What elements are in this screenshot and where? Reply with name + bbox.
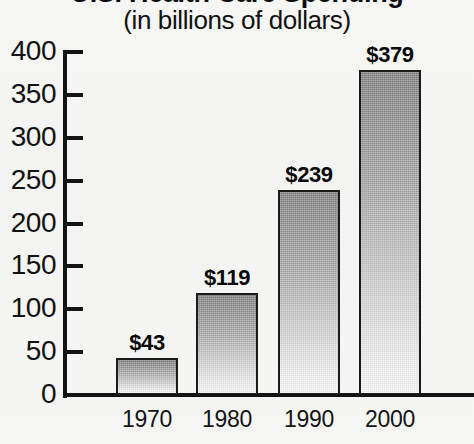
x-axis-category-label: 1980 — [180, 406, 274, 432]
bar-value-label: $379 — [345, 43, 435, 67]
bar — [196, 293, 258, 395]
y-axis-tick-label: 150 — [0, 251, 56, 279]
y-axis-tick — [63, 93, 83, 97]
bar-value-label: $43 — [102, 331, 192, 355]
bar-texture — [361, 72, 419, 393]
y-axis-tick-label: 400 — [0, 37, 56, 65]
bar-texture — [280, 192, 338, 393]
y-axis-tick-label: 250 — [0, 166, 56, 194]
y-axis-tick-label: 0 — [0, 380, 56, 408]
y-axis-tick — [63, 350, 83, 354]
bar-texture — [198, 295, 256, 393]
y-axis-tick — [63, 222, 83, 226]
y-axis-tick-label: 350 — [0, 80, 56, 108]
bar-value-label: $239 — [264, 163, 354, 187]
y-axis-tick — [63, 307, 83, 311]
y-axis-tick — [63, 179, 83, 183]
bar-chart-figure: U.S. Health Care Spending (in billions o… — [0, 0, 474, 444]
chart-subtitle: (in billions of dollars) — [0, 4, 474, 36]
y-axis-tick — [63, 50, 83, 54]
y-axis-tick-label: 100 — [0, 294, 56, 322]
chart-header: U.S. Health Care Spending (in billions o… — [0, 0, 474, 8]
bar — [359, 70, 421, 395]
bar-value-label: $119 — [182, 266, 272, 290]
bar — [278, 190, 340, 395]
y-axis-tick — [63, 393, 83, 397]
y-axis-tick-label: 50 — [0, 337, 56, 365]
bar-texture — [118, 360, 176, 393]
y-axis-tick-label: 200 — [0, 209, 56, 237]
y-axis-tick-label: 300 — [0, 123, 56, 151]
x-axis-category-label: 2000 — [343, 406, 437, 432]
bar — [116, 358, 178, 395]
x-axis-category-label: 1990 — [262, 406, 356, 432]
y-axis-tick — [63, 264, 83, 268]
y-axis-tick — [63, 136, 83, 140]
